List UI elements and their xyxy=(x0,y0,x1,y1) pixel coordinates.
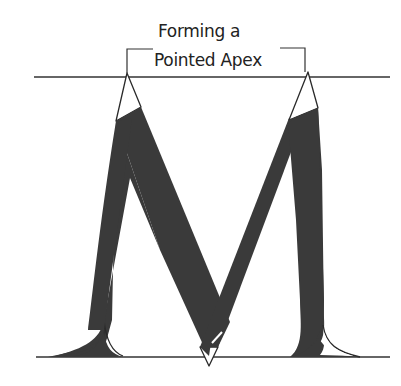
left-stem xyxy=(48,73,230,360)
bracket-left xyxy=(127,49,153,73)
right-stem-fill xyxy=(288,108,324,357)
letter-m-diagram xyxy=(0,0,401,386)
bracket-right xyxy=(280,48,305,72)
left-outer-stem xyxy=(56,118,132,357)
left-serif-base xyxy=(48,332,123,357)
